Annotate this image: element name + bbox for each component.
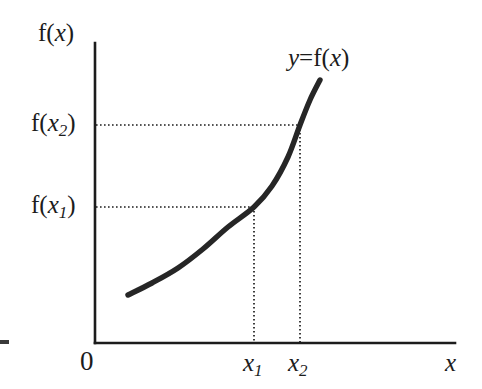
curve-equation-y: y xyxy=(288,44,299,71)
x1-tick-label: x1 xyxy=(243,350,263,379)
y-axis-label-f: f( xyxy=(38,19,55,46)
fx2-label-x: x xyxy=(48,109,59,136)
curve-equation-x: x xyxy=(330,44,341,71)
curve-equation-close: ) xyxy=(341,44,349,71)
curve-equation-label: y=f(x) xyxy=(288,45,349,70)
fx2-value-label: f(x2) xyxy=(31,110,76,139)
function-graph-figure: f(x) f(x2) f(x1) y=f(x) 0 x1 x2 x xyxy=(0,0,482,389)
origin-label: 0 xyxy=(80,348,94,375)
fx1-label-f: f( xyxy=(31,191,48,218)
y-axis-label-close: ) xyxy=(66,19,74,46)
x1-tick-variable: x xyxy=(243,349,254,376)
y-axis-label: f(x) xyxy=(38,20,74,45)
fx1-label-close: ) xyxy=(67,191,75,218)
fx2-label-f: f( xyxy=(31,109,48,136)
fx1-label-x: x xyxy=(48,191,59,218)
x1-tick-subscript: 1 xyxy=(254,361,263,380)
fx2-label-subscript: 2 xyxy=(59,121,68,140)
x2-tick-variable: x xyxy=(288,349,299,376)
x2-tick-label: x2 xyxy=(288,350,308,379)
y-axis-label-x: x xyxy=(55,19,66,46)
margin-artifact-mark xyxy=(0,340,9,344)
fx2-label-close: ) xyxy=(67,109,75,136)
x-axis-label: x xyxy=(445,350,456,375)
x2-tick-subscript: 2 xyxy=(299,361,308,380)
function-curve xyxy=(128,80,320,295)
fx1-value-label: f(x1) xyxy=(31,192,76,221)
fx1-label-subscript: 1 xyxy=(59,203,68,222)
curve-equation-f: f( xyxy=(313,44,330,71)
curve-equation-equals: = xyxy=(299,44,313,71)
